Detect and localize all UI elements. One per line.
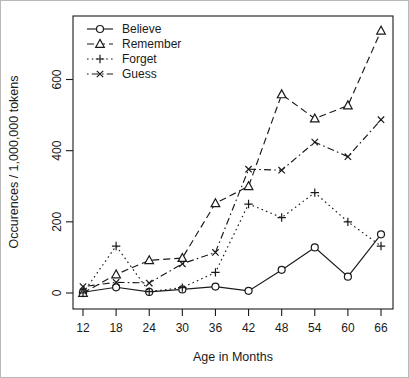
x-tick-label: 12 (76, 321, 90, 335)
x-tick-label: 54 (308, 321, 322, 335)
series-forget-point-marker (211, 268, 219, 276)
series-believe-point-marker (311, 244, 318, 251)
series-guess-point-marker (212, 249, 218, 255)
x-tick-label: 42 (242, 321, 256, 335)
legend-label-believe: Believe (122, 22, 162, 36)
y-axis-title: Occurences / 1,000,000 tokens (7, 75, 21, 248)
y-tick-label: 200 (50, 212, 64, 232)
series-forget-point-marker (277, 213, 285, 221)
y-tick-label: 600 (50, 69, 64, 89)
series-guess-point-marker (378, 117, 384, 123)
series-believe-point-marker (278, 266, 285, 273)
series-forget-point-marker (344, 218, 352, 226)
series-remember-point-marker (178, 254, 187, 262)
series-remember-point-marker (310, 114, 319, 122)
chart-figure: 020040060012182430364248546066BelieveRem… (0, 0, 409, 378)
plot-area: 020040060012182430364248546066BelieveRem… (50, 22, 388, 335)
series-forget-point-marker (377, 242, 385, 250)
series-forget-point-marker (112, 242, 120, 250)
legend-plus-icon (96, 55, 104, 63)
x-tick-label: 48 (275, 321, 289, 335)
y-tick-label: 400 (50, 140, 64, 160)
series-remember-point-marker (211, 199, 220, 207)
plot-border (73, 16, 393, 309)
series-remember-point-marker (112, 270, 121, 278)
series-believe-point-marker (344, 273, 351, 280)
series-believe-point-marker (378, 231, 385, 238)
series-guess-point-marker (146, 280, 152, 286)
series-remember-point-marker (277, 90, 286, 98)
legend-label-guess: Guess (122, 67, 157, 81)
legend-triangle-icon (96, 39, 105, 47)
x-tick-label: 66 (374, 321, 388, 335)
y-tick-label: 0 (50, 289, 64, 296)
series-believe-line (83, 234, 381, 292)
series-guess-point-marker (312, 139, 318, 145)
series-forget-point-marker (244, 200, 252, 208)
legend-label-forget: Forget (122, 52, 157, 66)
x-tick-label: 30 (176, 321, 190, 335)
legend-label-remember: Remember (122, 37, 181, 51)
legend-circle-icon (97, 26, 104, 33)
series-guess-point-marker (345, 154, 351, 160)
series-remember-point-marker (344, 101, 353, 109)
x-axis-title: Age in Months (193, 350, 273, 364)
x-tick-label: 36 (209, 321, 223, 335)
series-remember-point-marker (377, 26, 386, 34)
series-remember-point-marker (244, 182, 253, 190)
line-chart: 020040060012182430364248546066BelieveRem… (1, 1, 409, 378)
series-believe-point-marker (245, 287, 252, 294)
x-tick-label: 60 (341, 321, 355, 335)
series-believe-point-marker (212, 283, 219, 290)
x-tick-label: 18 (109, 321, 123, 335)
x-tick-label: 24 (143, 321, 157, 335)
series-forget-line (83, 193, 381, 293)
